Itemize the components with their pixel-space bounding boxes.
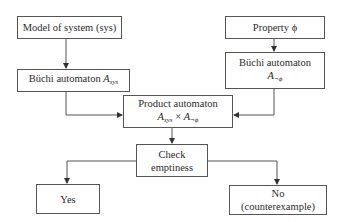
node-buchi-automaton-sys: Büchi automaton Asys [17,69,130,92]
node-yes: Yes [36,184,100,214]
node-label: Büchi automaton [239,56,311,69]
node-label: Product automaton [138,97,218,110]
node-model-of-system: Model of system (sys) [17,16,122,39]
node-label: Büchi automaton Asys [29,72,119,89]
node-no-counterexample: No (counterexample) [229,185,327,215]
node-label-line1: Check [159,148,186,161]
node-label: Yes [60,193,75,206]
node-label-line1: No [272,187,285,200]
edge-buchi-neg-to-product [234,89,274,115]
edge-check-to-yes [67,161,136,183]
node-buchi-automaton-neg-phi: Büchi automaton A¬ϕ [225,52,325,89]
edge-buchi-sys-to-product [66,92,122,115]
node-label-line2: (counterexample) [241,200,315,213]
edge-check-to-no [208,161,277,184]
node-product-automaton: Product automaton Asys × A¬ϕ [123,95,233,128]
node-formula: A¬ϕ [268,69,283,86]
node-label: Model of system (sys) [23,21,117,34]
node-property: Property ϕ [225,16,325,39]
node-formula: Asys × A¬ϕ [158,110,199,127]
node-check-emptiness: Check emptiness [136,144,208,177]
node-label-line2: emptiness [151,161,193,174]
node-label: Property ϕ [253,21,297,34]
